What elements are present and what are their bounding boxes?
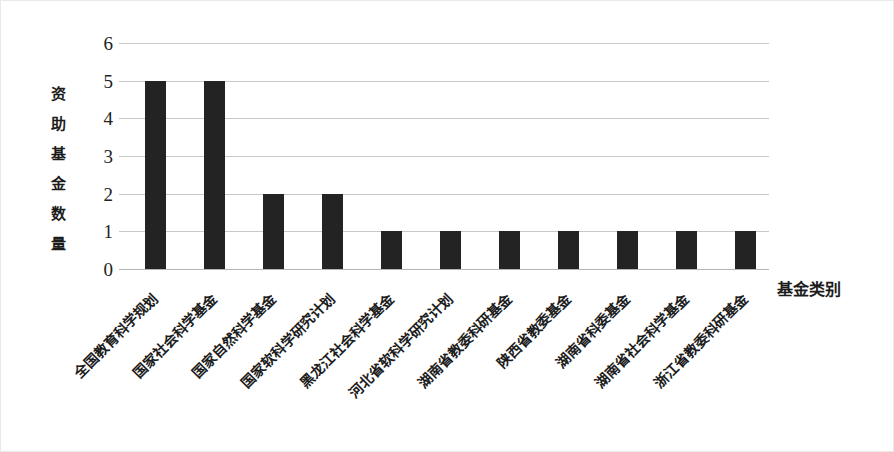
bar	[735, 231, 756, 269]
y-tick-label-1: 1	[73, 222, 113, 241]
bar	[558, 231, 579, 269]
bar-chart-figure: 资 助 基 金 数 量 6 5 4 3 2 1 0 全国教育科学规划 国家社会科…	[0, 0, 894, 452]
bar	[204, 81, 225, 269]
bar	[381, 231, 402, 269]
bar	[263, 194, 284, 269]
y-tick-label-2: 2	[73, 185, 113, 204]
y-tick-label-6: 6	[73, 34, 113, 53]
x-axis-title: 基金类别	[777, 280, 841, 300]
plot-area	[119, 43, 769, 269]
bar	[322, 194, 343, 269]
gridline-6	[119, 43, 769, 44]
bar	[440, 231, 461, 269]
bar	[145, 81, 166, 269]
bar	[617, 231, 638, 269]
gridline-0-baseline	[119, 269, 769, 270]
y-tick-label-0: 0	[73, 260, 113, 279]
y-axis-title: 资 助 基 金 数 量	[45, 79, 71, 259]
bar	[676, 231, 697, 269]
bar	[499, 231, 520, 269]
y-tick-label-4: 4	[73, 109, 113, 128]
y-tick-label-3: 3	[73, 147, 113, 166]
y-tick-label-5: 5	[73, 72, 113, 91]
